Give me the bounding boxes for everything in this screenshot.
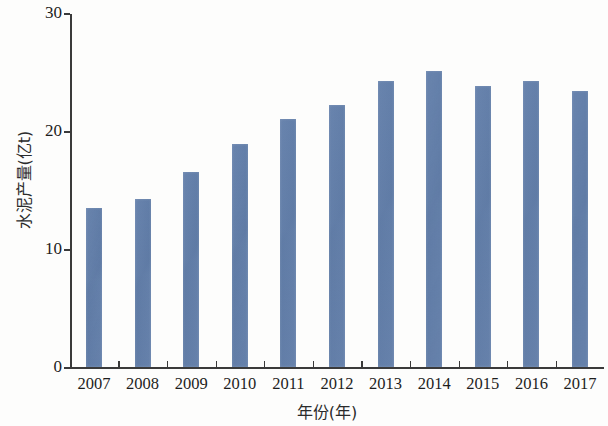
bar — [572, 91, 588, 367]
y-tick-label: 10 — [28, 239, 62, 259]
x-tick-mark — [118, 361, 119, 368]
y-tick-mark — [64, 367, 70, 368]
x-axis-line — [70, 367, 604, 369]
bar — [135, 199, 151, 367]
y-axis-tick-labels: 0102030 — [26, 0, 62, 426]
bar-chart-figure: 水泥产量(亿t) 0102030 20072008200920102011201… — [0, 0, 608, 426]
x-tick-mark — [410, 361, 411, 368]
x-tick-mark — [507, 361, 508, 368]
y-tick-label: 20 — [28, 121, 62, 141]
bar — [329, 105, 345, 367]
x-axis-tick-labels: 2007200820092010201120122013201420152016… — [70, 374, 604, 398]
x-tick-mark — [459, 361, 460, 368]
x-tick-mark — [361, 361, 362, 368]
x-tick-mark — [216, 361, 217, 368]
x-tick-label: 2017 — [550, 374, 608, 394]
y-axis-line — [70, 14, 72, 368]
x-axis-title: 年份(年) — [0, 399, 608, 423]
bar — [523, 81, 539, 367]
x-tick-mark — [556, 361, 557, 368]
bar — [378, 81, 394, 367]
bar — [183, 172, 199, 367]
plot-area — [70, 14, 604, 368]
bar — [426, 71, 442, 367]
y-tick-label: 30 — [28, 3, 62, 23]
x-tick-mark — [167, 361, 168, 368]
x-tick-mark — [313, 361, 314, 368]
y-tick-mark — [64, 13, 70, 14]
bar — [232, 144, 248, 367]
bar — [86, 208, 102, 367]
bar — [475, 86, 491, 367]
x-tick-mark — [264, 361, 265, 368]
y-tick-label: 0 — [28, 357, 62, 377]
y-tick-mark — [64, 249, 70, 250]
y-tick-mark — [64, 131, 70, 132]
bar — [280, 119, 296, 367]
